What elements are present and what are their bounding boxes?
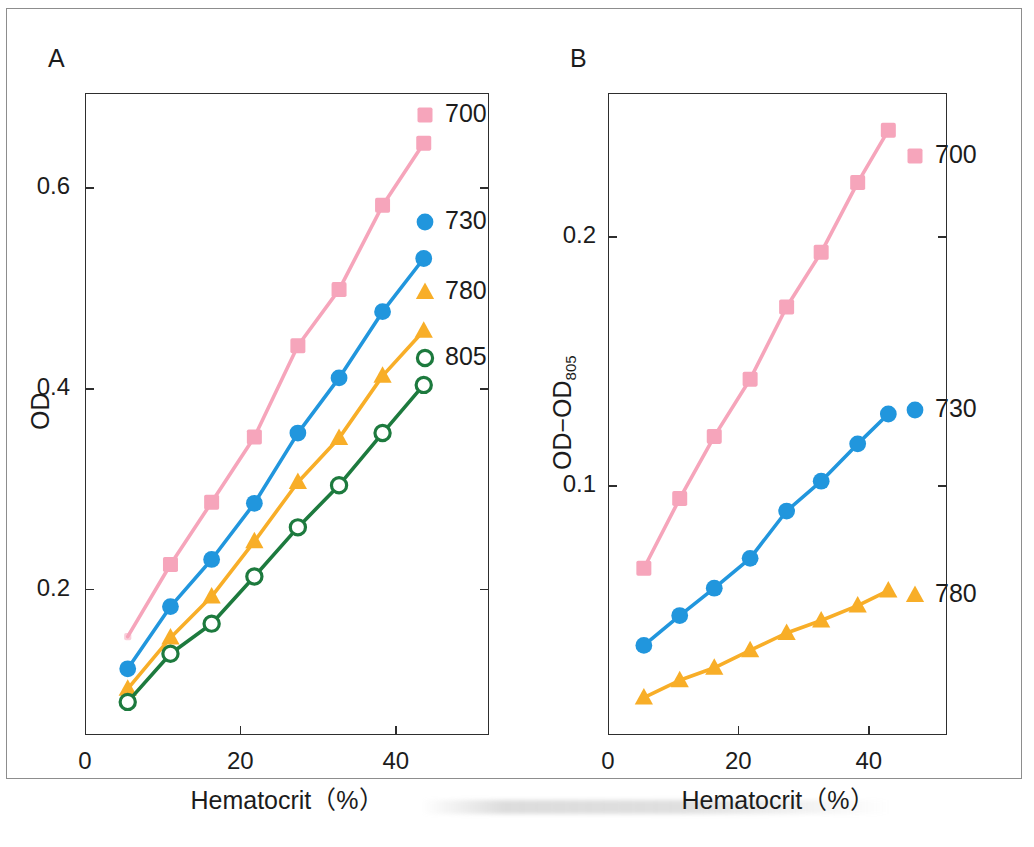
panel-a-x-axis-title: Hematocrit（%） xyxy=(127,780,447,816)
y-tick-mark-right xyxy=(480,388,489,390)
y-tick-label: 0.6 xyxy=(26,172,70,200)
panel-b-x-axis-title: Hematocrit（%） xyxy=(628,780,928,816)
x-tick-mark xyxy=(395,726,397,735)
panel-b-letter: B xyxy=(570,44,587,73)
y-tick-mark-right xyxy=(480,187,489,189)
x-tick-mark xyxy=(738,726,740,735)
y-tick-mark-left xyxy=(85,388,94,390)
y-tick-label: 0.2 xyxy=(26,574,70,602)
legend-label-700[interactable]: 700 xyxy=(445,99,487,128)
x-tick-label: 0 xyxy=(568,747,648,775)
x-tick-label: 0 xyxy=(45,747,125,775)
legend-label-730[interactable]: 730 xyxy=(935,394,977,423)
x-tick-mark xyxy=(240,726,242,735)
y-tick-mark-left xyxy=(608,485,617,487)
y-tick-label: 0.2 xyxy=(548,221,596,249)
x-tick-label: 20 xyxy=(698,747,778,775)
panel-b-plot-frame xyxy=(608,93,947,735)
y-tick-mark-left xyxy=(85,589,94,591)
y-tick-label: 0.4 xyxy=(26,373,70,401)
y-tick-mark-left xyxy=(85,187,94,189)
x-tick-label: 40 xyxy=(356,747,436,775)
legend-label-780[interactable]: 780 xyxy=(935,579,977,608)
y-axis-subscript: 805 xyxy=(562,355,579,380)
y-tick-mark-left xyxy=(608,236,617,238)
x-tick-label: 40 xyxy=(829,747,909,775)
x-tick-label: 20 xyxy=(200,747,280,775)
figure-canvas: A OD Hematocrit（%） B OD−OD805 Hematocrit… xyxy=(0,0,1034,847)
panel-b-y-axis-title: OD−OD805 xyxy=(548,355,577,470)
y-tick-mark-right xyxy=(480,589,489,591)
legend-label-805[interactable]: 805 xyxy=(445,342,487,371)
panel-a-letter: A xyxy=(48,44,65,73)
panel-a-plot-frame xyxy=(85,93,489,735)
legend-label-700[interactable]: 700 xyxy=(935,140,977,169)
x-tick-mark xyxy=(868,726,870,735)
legend-label-730[interactable]: 730 xyxy=(445,206,487,235)
y-tick-mark-right xyxy=(938,485,947,487)
legend-label-780[interactable]: 780 xyxy=(445,276,487,305)
y-tick-label: 0.1 xyxy=(548,470,596,498)
y-tick-mark-right xyxy=(938,236,947,238)
